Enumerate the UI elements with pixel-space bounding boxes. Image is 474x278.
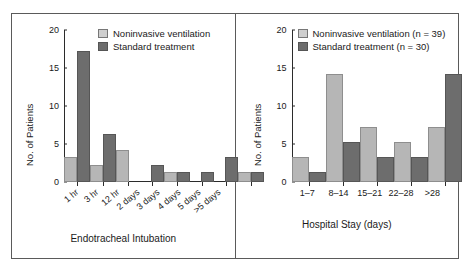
bar-group xyxy=(292,30,326,182)
bar xyxy=(360,127,377,182)
bar xyxy=(103,134,116,182)
bar xyxy=(411,157,428,182)
bar-group xyxy=(326,30,360,182)
y-tick-5: 5 xyxy=(281,140,291,149)
bar-groups-right xyxy=(292,30,449,182)
x-tick-cell: >5 days xyxy=(206,182,226,238)
y-tick-15: 15 xyxy=(276,64,291,73)
x-tick-cell: 15–21 xyxy=(354,182,385,206)
y-tick-10: 10 xyxy=(49,102,64,111)
y-tick-5: 5 xyxy=(54,140,64,149)
y-tick-10: 10 xyxy=(276,102,291,111)
bar-group xyxy=(64,30,90,182)
bar-group xyxy=(90,30,116,182)
bar xyxy=(292,157,309,182)
x-tick-label: 1 hr xyxy=(62,187,80,205)
y-tick-20: 20 xyxy=(276,26,291,35)
x-tick-cell: 8–14 xyxy=(323,182,354,206)
y-tick-0: 0 xyxy=(281,178,291,187)
x-tick-cell: 3 hr xyxy=(84,182,104,238)
y-tick-20: 20 xyxy=(49,26,64,35)
bar xyxy=(326,74,343,182)
bar xyxy=(445,74,462,182)
y-axis-label-left: No. of Patients xyxy=(24,104,35,166)
bar-group xyxy=(190,30,214,182)
bar-group xyxy=(428,30,462,182)
bar xyxy=(64,157,77,182)
bar xyxy=(428,127,445,182)
y-axis-label-right: No. of Patients xyxy=(252,104,263,166)
bar-group xyxy=(140,30,164,182)
x-tick-label: 3 hr xyxy=(83,187,101,205)
x-axis-label-right: Hospital Stay (days) xyxy=(236,219,459,230)
x-tick-label: 22–28 xyxy=(389,188,414,198)
y-tick-0: 0 xyxy=(54,178,64,187)
x-tick-labels-right: 1–78–1415–2122–28>28 xyxy=(292,182,449,206)
bar xyxy=(77,51,90,182)
x-tick-cell: 22–28 xyxy=(385,182,416,206)
y-tick-15: 15 xyxy=(49,64,64,73)
bar-group xyxy=(214,30,238,182)
bar-group xyxy=(164,30,190,182)
bar-group xyxy=(116,30,140,182)
x-axis-label-left: Endotracheal Intubation xyxy=(12,233,235,244)
x-tick-cell: 1 hr xyxy=(64,182,84,238)
x-tick-labels-left: 1 hr3 hr12 hr2 days3 days4 days5 days>5 … xyxy=(64,182,227,238)
x-tick-label: 8–14 xyxy=(328,188,348,198)
bar xyxy=(177,172,190,182)
bar xyxy=(394,142,411,182)
plot-area-left: 0 5 10 15 20 1 hr3 hr12 hr2 days3 days4 … xyxy=(64,30,227,182)
bar xyxy=(90,165,103,182)
bar xyxy=(309,172,326,182)
x-tick-label: 1–7 xyxy=(300,188,315,198)
bar xyxy=(164,172,177,182)
bar xyxy=(377,157,394,182)
bar-groups-left xyxy=(64,30,227,182)
chart-endotracheal-intubation: No. of Patients Noninvasive ventilation … xyxy=(12,14,236,258)
x-tick-cell: >28 xyxy=(417,182,448,206)
bar xyxy=(116,150,129,182)
chart-hospital-stay: No. of Patients Noninvasive ventilation … xyxy=(236,14,459,258)
bar xyxy=(201,172,214,182)
bar-group xyxy=(394,30,428,182)
plot-area-right: 0 5 10 15 20 1–78–1415–2122–28>28 xyxy=(292,30,449,182)
bar xyxy=(151,165,164,182)
x-tick-label: >28 xyxy=(425,188,440,198)
bar xyxy=(343,142,360,182)
figure-panel: No. of Patients Noninvasive ventilation … xyxy=(11,13,459,259)
x-tick-cell: 1–7 xyxy=(292,182,323,206)
x-tick-label: 15–21 xyxy=(357,188,382,198)
bar-group xyxy=(360,30,394,182)
